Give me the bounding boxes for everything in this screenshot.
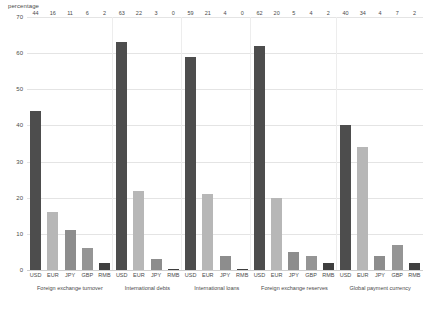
bar-value-label: 4 xyxy=(223,11,226,17)
bar-usd: 63 xyxy=(116,42,127,270)
bar-rmb: 2 xyxy=(323,263,334,270)
x-axis-tick-rmb: RMB xyxy=(234,272,251,278)
category-label-group: USDEURJPYRMB xyxy=(113,272,182,284)
category-label-group: USDEURJPYGBPRMB xyxy=(337,272,423,284)
bar-value-label: 44 xyxy=(33,11,39,17)
bar-slot: 22 xyxy=(130,17,147,270)
bar-value-label: 34 xyxy=(360,11,366,17)
bar-chart: percentage 010203040506070 4416116263223… xyxy=(0,0,429,322)
category-label-group: USDEURJPYGBPRMB xyxy=(27,272,113,284)
bar-group: 632230 xyxy=(113,17,182,270)
x-axis-tick-jpy: JPY xyxy=(285,272,302,278)
bar-gbp: 4 xyxy=(306,256,317,270)
x-axis-tick-gbp: GBP xyxy=(79,272,96,278)
x-axis-tick-usd: USD xyxy=(337,272,354,278)
x-axis-tick-rmb: RMB xyxy=(320,272,337,278)
bar-eur: 34 xyxy=(357,147,368,270)
bar-usd: 40 xyxy=(340,125,351,270)
x-axis-tick-eur: EUR xyxy=(130,272,147,278)
bar-value-label: 2 xyxy=(327,11,330,17)
bar-eur: 20 xyxy=(271,198,282,270)
bar-value-label: 22 xyxy=(136,11,142,17)
group-title: Foreign exchange reserves xyxy=(252,284,338,320)
bar-group: 44161162 xyxy=(27,17,113,270)
bar-gbp: 6 xyxy=(82,248,93,270)
x-axis-tick-jpy: JPY xyxy=(148,272,165,278)
bar-rmb: 2 xyxy=(99,263,110,270)
plot-area: 010203040506070 441611626322305921406220… xyxy=(27,17,423,270)
bar-value-label: 3 xyxy=(155,11,158,17)
bar-value-label: 5 xyxy=(292,11,295,17)
y-axis-tick: 20 xyxy=(16,195,23,201)
bar-rmb: 0 xyxy=(168,269,179,271)
bar-slot: 59 xyxy=(182,17,199,270)
bar-usd: 62 xyxy=(254,46,265,270)
group-title: International debts xyxy=(113,284,182,320)
bar-slot: 16 xyxy=(44,17,61,270)
group-title: Global payment currency xyxy=(337,284,423,320)
bar-slot: 4 xyxy=(216,17,233,270)
bar-slot: 4 xyxy=(303,17,320,270)
bar-jpy: 4 xyxy=(374,256,385,270)
bar-value-label: 2 xyxy=(413,11,416,17)
y-axis-tick: 40 xyxy=(16,122,23,128)
bar-gbp: 7 xyxy=(392,245,403,270)
bar-slot: 21 xyxy=(199,17,216,270)
bar-group: 592140 xyxy=(182,17,251,270)
x-axis-tick-eur: EUR xyxy=(199,272,216,278)
bar-value-label: 0 xyxy=(241,11,244,17)
bar-value-label: 63 xyxy=(119,11,125,17)
bar-slot: 2 xyxy=(406,17,423,270)
y-axis-tick: 70 xyxy=(16,14,23,20)
x-axis-tick-rmb: RMB xyxy=(96,272,113,278)
x-axis-tick-rmb: RMB xyxy=(406,272,423,278)
group-titles-row: Foreign exchange turnoverInternational d… xyxy=(27,284,423,320)
bar-usd: 59 xyxy=(185,57,196,270)
y-axis-tick: 0 xyxy=(20,267,23,273)
bar-slot: 63 xyxy=(113,17,130,270)
bar-slot: 6 xyxy=(79,17,96,270)
x-axis-tick-jpy: JPY xyxy=(371,272,388,278)
bar-group: 4034472 xyxy=(337,17,423,270)
bar-slot: 5 xyxy=(285,17,302,270)
bar-value-label: 4 xyxy=(378,11,381,17)
gridline: 0 xyxy=(27,270,423,271)
bar-slot: 34 xyxy=(354,17,371,270)
bar-slot: 44 xyxy=(27,17,44,270)
bar-value-label: 7 xyxy=(396,11,399,17)
x-axis-tick-gbp: GBP xyxy=(389,272,406,278)
y-axis-tick: 30 xyxy=(16,159,23,165)
bar-slot: 0 xyxy=(165,17,182,270)
x-axis-tick-rmb: RMB xyxy=(165,272,182,278)
bar-slot: 7 xyxy=(389,17,406,270)
bar-slot: 20 xyxy=(268,17,285,270)
x-axis-tick-usd: USD xyxy=(182,272,199,278)
bar-group: 6220542 xyxy=(251,17,337,270)
category-label-group: USDEURJPYGBPRMB xyxy=(251,272,337,284)
y-axis-tick: 60 xyxy=(16,50,23,56)
bar-jpy: 11 xyxy=(65,230,76,270)
bar-slot: 4 xyxy=(371,17,388,270)
bar-eur: 22 xyxy=(133,191,144,271)
category-label-group: USDEURJPYRMB xyxy=(182,272,251,284)
x-axis-tick-usd: USD xyxy=(251,272,268,278)
bar-value-label: 2 xyxy=(103,11,106,17)
group-title: International loans xyxy=(182,284,251,320)
bar-slot: 11 xyxy=(61,17,78,270)
x-axis-tick-usd: USD xyxy=(113,272,130,278)
x-axis-tick-eur: EUR xyxy=(354,272,371,278)
bar-rmb: 2 xyxy=(409,263,420,270)
bar-eur: 16 xyxy=(47,212,58,270)
y-axis-title: percentage xyxy=(8,3,39,9)
x-axis-tick-usd: USD xyxy=(27,272,44,278)
bar-value-label: 62 xyxy=(256,11,262,17)
bar-slot: 2 xyxy=(96,17,113,270)
y-axis-tick: 10 xyxy=(16,231,23,237)
bar-value-label: 0 xyxy=(172,11,175,17)
bar-value-label: 40 xyxy=(342,11,348,17)
bar-jpy: 4 xyxy=(220,256,231,270)
x-axis-tick-jpy: JPY xyxy=(61,272,78,278)
group-title: Foreign exchange turnover xyxy=(27,284,113,320)
category-labels-row: USDEURJPYGBPRMBUSDEURJPYRMBUSDEURJPYRMBU… xyxy=(27,272,423,284)
bar-slot: 3 xyxy=(148,17,165,270)
